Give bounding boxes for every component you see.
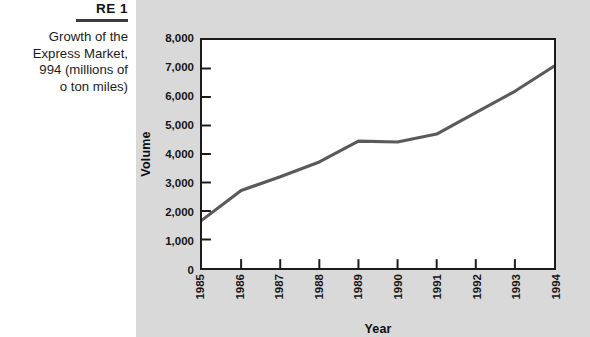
- line-chart-svg: [202, 40, 554, 268]
- data-series-line: [202, 66, 554, 220]
- plot-area: [200, 38, 556, 270]
- x-tick-label: 1993: [510, 274, 522, 300]
- x-tick-label: 1987: [273, 274, 285, 300]
- y-tick-label: 5,000: [165, 119, 194, 131]
- caption-line-3: 994 (millions of: [0, 62, 128, 79]
- figure-root: RE 1 Growth of the Express Market, 994 (…: [0, 0, 590, 337]
- x-tick-label: 1992: [471, 274, 483, 300]
- y-tick-label: 3,000: [165, 177, 194, 189]
- x-tick-label: 1990: [392, 274, 404, 300]
- caption-line-2: Express Market,: [0, 46, 128, 63]
- x-axis-tick-labels: 1985198619871988198919901991199219931994: [200, 274, 556, 320]
- x-tick-label: 1985: [194, 274, 206, 300]
- y-axis-tick-labels: 01,0002,0003,0004,0005,0006,0007,0008,00…: [136, 0, 194, 337]
- x-tick-label: 1991: [431, 274, 443, 300]
- y-tick-label: 8,000: [165, 32, 194, 44]
- chart-panel: Volume 01,0002,0003,0004,0005,0006,0007,…: [136, 0, 590, 337]
- y-tick-label: 2,000: [165, 206, 194, 218]
- y-tick-label: 6,000: [165, 90, 194, 102]
- x-tick-label: 1986: [234, 274, 246, 300]
- y-tick-label: 7,000: [165, 61, 194, 73]
- caption-line-1: Growth of the: [0, 29, 128, 46]
- x-tick-label: 1988: [313, 274, 325, 300]
- y-tick-label: 4,000: [165, 148, 194, 160]
- x-tick-label: 1994: [550, 274, 562, 300]
- y-tick-label: 1,000: [165, 235, 194, 247]
- x-axis-title: Year: [200, 322, 556, 336]
- figure-caption-block: RE 1 Growth of the Express Market, 994 (…: [0, 0, 136, 95]
- x-tick-label: 1989: [352, 274, 364, 300]
- figure-rule-divider: [76, 19, 128, 22]
- figure-number-label: RE 1: [0, 0, 128, 16]
- caption-line-4: o ton miles): [0, 79, 128, 96]
